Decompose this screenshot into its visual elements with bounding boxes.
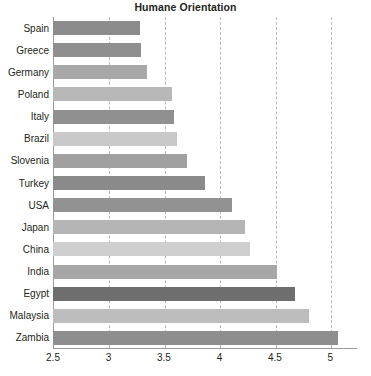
bar-row	[53, 150, 357, 172]
bar-row	[53, 216, 357, 238]
bar-row	[53, 194, 357, 216]
category-label-poland: Poland	[0, 89, 49, 100]
bar-japan	[53, 220, 245, 234]
category-label-japan: Japan	[0, 222, 49, 233]
bar-germany	[53, 65, 147, 79]
bar-poland	[53, 87, 172, 101]
bar-row	[53, 83, 357, 105]
bar-row	[53, 172, 357, 194]
x-tick-label-4: 4	[217, 352, 223, 363]
category-label-brazil: Brazil	[0, 133, 49, 144]
x-tick-label-2.5: 2.5	[46, 352, 60, 363]
humane-orientation-bar-chart: Humane Orientation SpainGreeceGermanyPol…	[0, 0, 371, 376]
category-label-india: India	[0, 266, 49, 277]
bar-italy	[53, 110, 174, 124]
bar-row	[53, 61, 357, 83]
bar-row	[53, 17, 357, 39]
bar-greece	[53, 43, 141, 57]
bar-india	[53, 265, 277, 279]
bar-zambia	[53, 331, 338, 345]
category-label-egypt: Egypt	[0, 288, 49, 299]
bar-slovenia	[53, 154, 187, 168]
category-axis-labels: SpainGreeceGermanyPolandItalyBrazilSlove…	[0, 17, 49, 349]
bar-row	[53, 260, 357, 282]
bars-layer	[53, 17, 357, 349]
bar-china	[53, 242, 250, 256]
category-label-germany: Germany	[0, 67, 49, 78]
bar-usa	[53, 198, 232, 212]
category-label-turkey: Turkey	[0, 178, 49, 189]
bar-turkey	[53, 176, 205, 190]
category-label-slovenia: Slovenia	[0, 155, 49, 166]
bar-row	[53, 305, 357, 327]
bar-row	[53, 39, 357, 61]
bar-row	[53, 238, 357, 260]
chart-title: Humane Orientation	[0, 1, 371, 13]
value-axis-labels: 2.533.544.55	[0, 352, 371, 372]
bar-row	[53, 128, 357, 150]
category-label-spain: Spain	[0, 23, 49, 34]
category-label-zambia: Zambia	[0, 332, 49, 343]
x-tick-label-5: 5	[328, 352, 334, 363]
bar-row	[53, 283, 357, 305]
bar-row	[53, 327, 357, 349]
category-label-china: China	[0, 244, 49, 255]
bar-brazil	[53, 132, 177, 146]
category-label-usa: USA	[0, 200, 49, 211]
bar-spain	[53, 21, 140, 35]
bar-row	[53, 106, 357, 128]
x-tick-label-4.5: 4.5	[268, 352, 282, 363]
x-tick-label-3.5: 3.5	[157, 352, 171, 363]
x-tick-label-3: 3	[106, 352, 112, 363]
bar-egypt	[53, 287, 295, 301]
category-label-italy: Italy	[0, 111, 49, 122]
bar-malaysia	[53, 309, 309, 323]
category-label-malaysia: Malaysia	[0, 310, 49, 321]
category-label-greece: Greece	[0, 45, 49, 56]
